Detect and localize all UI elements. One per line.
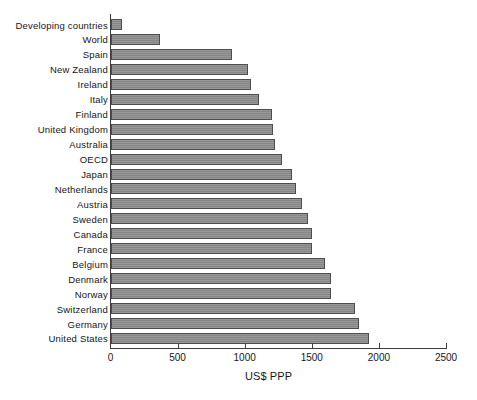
- category-label: Sweden: [73, 214, 108, 225]
- x-axis-tick: [245, 343, 246, 349]
- x-axis-title: US$ PPP: [0, 370, 477, 382]
- category-label: Finland: [76, 109, 109, 120]
- category-label: Switzerland: [57, 304, 108, 315]
- x-axis-line: [110, 348, 447, 349]
- category-label: New Zealand: [50, 64, 108, 75]
- x-axis-tick: [178, 343, 179, 349]
- x-axis-tick-label: 0: [81, 352, 141, 364]
- category-label: Germany: [68, 319, 108, 330]
- bar: [111, 303, 356, 314]
- bar: [111, 183, 296, 194]
- plot-area: Developing countriesWorldSpainNew Zealan…: [0, 0, 477, 400]
- bar: [111, 169, 292, 180]
- bar: [111, 124, 273, 135]
- bar: [111, 34, 160, 45]
- category-label: Denmark: [68, 274, 108, 285]
- category-label: Ireland: [78, 79, 108, 90]
- bar: [111, 228, 313, 239]
- x-axis-tick-label: 2500: [416, 352, 476, 364]
- x-axis-tick-label: 2000: [349, 352, 409, 364]
- category-label: Norway: [75, 289, 108, 300]
- category-label: United States: [48, 333, 108, 344]
- category-label: Australia: [69, 139, 108, 150]
- bar: [111, 109, 272, 120]
- bar: [111, 154, 282, 165]
- bar: [111, 288, 331, 299]
- x-axis-tick-label: 1000: [215, 352, 275, 364]
- bar: [111, 243, 313, 254]
- bar: [111, 213, 309, 224]
- category-label: Canada: [74, 229, 108, 240]
- category-label: Italy: [90, 94, 108, 105]
- category-label: Japan: [81, 169, 108, 180]
- x-axis-tick: [379, 343, 380, 349]
- bar: [111, 273, 331, 284]
- bar: [111, 19, 122, 30]
- bar: [111, 333, 369, 344]
- category-label: Austria: [77, 199, 108, 210]
- x-axis-tick: [312, 343, 313, 349]
- bar-chart: Developing countriesWorldSpainNew Zealan…: [0, 0, 477, 400]
- bar: [111, 64, 248, 75]
- category-label: Spain: [83, 49, 108, 60]
- category-label: United Kingdom: [38, 124, 108, 135]
- category-label: Developing countries: [15, 20, 108, 31]
- category-label: France: [77, 244, 108, 255]
- bar: [111, 49, 232, 60]
- bar: [111, 94, 259, 105]
- bar: [111, 258, 325, 269]
- bar: [111, 79, 251, 90]
- bar: [111, 318, 359, 329]
- category-label: OECD: [80, 154, 108, 165]
- x-axis-tick-label: 500: [148, 352, 208, 364]
- x-axis-title-text: US$ PPP: [245, 370, 292, 382]
- bar: [111, 198, 302, 209]
- category-label: Netherlands: [55, 184, 108, 195]
- category-label: Belgium: [72, 259, 108, 270]
- bar: [111, 139, 275, 150]
- x-axis-tick-label: 1500: [282, 352, 342, 364]
- category-label: World: [82, 34, 108, 45]
